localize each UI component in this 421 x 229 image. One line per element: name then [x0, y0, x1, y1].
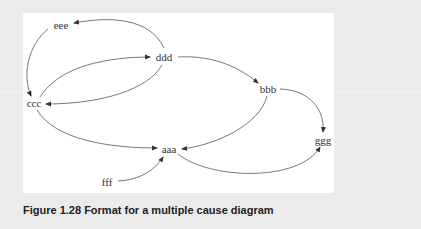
edge-bbb-ggg — [280, 89, 323, 132]
node-ggg: ggg — [315, 135, 332, 146]
edge-ccc-aaa — [37, 110, 157, 148]
edge-ccc-ddd — [40, 57, 150, 97]
node-ccc: ccc — [27, 98, 42, 109]
edge-aaa-ggg — [178, 147, 320, 173]
node-eee: eee — [54, 20, 69, 31]
node-ddd: ddd — [156, 52, 173, 63]
node-aaa: aaa — [162, 144, 177, 155]
node-bbb: bbb — [260, 84, 277, 95]
edge-ddd-eee — [74, 20, 164, 48]
edge-bbb-aaa — [182, 96, 267, 149]
edge-ddd-bbb — [178, 57, 258, 83]
figure-caption: Figure 1.28 Format for a multiple cause … — [23, 204, 274, 216]
edge-eee-ccc — [27, 29, 48, 96]
diagram-edges — [0, 0, 421, 229]
node-fff: fff — [102, 177, 113, 188]
edge-ddd-ccc — [46, 65, 162, 104]
edge-fff-aaa — [118, 157, 163, 181]
